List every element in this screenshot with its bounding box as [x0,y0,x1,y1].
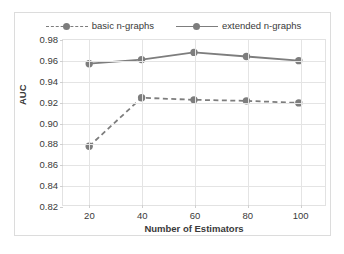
y-tick-mark [60,124,63,125]
y-tick-mark [60,82,63,83]
x-tick-label: 60 [190,211,201,221]
y-axis-title: AUC [17,84,28,105]
series-line-extended-n-graphs [89,52,299,63]
x-tick-mark [248,205,249,208]
y-tick-mark [60,186,63,187]
legend-label-basic-n-graphs: basic n-graphs [92,21,154,31]
y-tick-label: 0.90 [40,119,59,129]
y-tick-label: 0.82 [40,202,59,212]
data-point [190,49,197,56]
y-tick-label: 0.96 [40,56,59,66]
x-tick-mark [89,205,90,208]
y-tick-label: 0.88 [40,140,59,150]
chart-figure: basic n-graphs extended n-graphs 0.980.9… [14,12,331,236]
gridline-vertical [142,40,143,205]
y-tick-mark [60,207,63,208]
gridline-horizontal [63,103,325,104]
x-tick-label: 80 [243,211,254,221]
y-tick-label: 0.86 [40,161,59,171]
x-axis-title: Number of Estimators [62,223,326,234]
y-tick-label: 0.92 [40,98,59,108]
legend-item-extended-n-graphs[interactable]: extended n-graphs [176,21,301,32]
plot-area: 0.980.960.940.920.900.880.860.840.822040… [62,39,326,206]
legend-item-basic-n-graphs[interactable]: basic n-graphs [46,21,154,32]
series-line-basic-n-graphs [89,98,299,146]
y-tick-label: 0.98 [40,35,59,45]
gridline-vertical [248,40,249,205]
legend-swatch-solid-icon [176,21,218,32]
gridline-vertical [89,40,90,205]
gridline-horizontal [63,61,325,62]
data-point [243,53,250,60]
x-tick-mark [301,205,302,208]
y-tick-label: 0.94 [40,77,59,87]
y-tick-mark [60,103,63,104]
gridline-horizontal [63,82,325,83]
x-tick-label: 20 [84,211,95,221]
y-tick-label: 0.84 [40,181,59,191]
y-tick-mark [60,165,63,166]
x-tick-mark [142,205,143,208]
legend-label-extended-n-graphs: extended n-graphs [222,21,301,31]
y-tick-mark [60,40,63,41]
gridline-vertical [301,40,302,205]
chart-legend: basic n-graphs extended n-graphs [15,16,332,36]
x-tick-mark [195,205,196,208]
gridline-horizontal [63,144,325,145]
gridline-horizontal [63,165,325,166]
gridline-vertical [195,40,196,205]
y-tick-mark [60,144,63,145]
x-tick-label: 40 [137,211,148,221]
x-tick-label: 100 [293,211,309,221]
y-tick-mark [60,61,63,62]
legend-swatch-dashed-icon [46,21,88,32]
gridline-horizontal [63,186,325,187]
series-layer [63,40,325,205]
gridline-horizontal [63,124,325,125]
